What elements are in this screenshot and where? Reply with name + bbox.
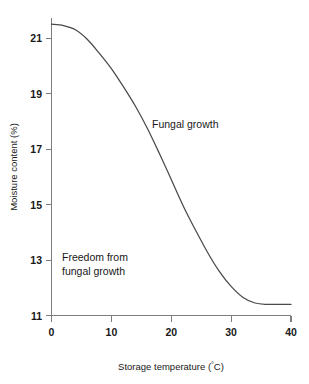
x-tick-label-40: 40 (285, 326, 297, 338)
annotation-fungal-growth: Fungal growth (152, 118, 219, 130)
y-tick-label-11: 11 (31, 310, 42, 322)
y-tick-label-21: 21 (30, 32, 42, 44)
chart-figure: 21 19 17 15 13 11 0 10 20 30 40 Storage … (0, 0, 309, 384)
x-tick-label-0: 0 (49, 326, 55, 338)
x-tick-label-20: 20 (165, 326, 177, 338)
y-tick-label-17: 17 (30, 143, 42, 155)
y-tick-label-19: 19 (30, 88, 42, 100)
y-tick-label-13: 13 (30, 254, 42, 266)
annotation-freedom-line2: fungal growth (62, 265, 125, 277)
annotation-freedom-line1: Freedom from (62, 251, 128, 263)
y-tick-label-15: 15 (30, 199, 42, 211)
chart-canvas: 21 19 17 15 13 11 0 10 20 30 40 Storage … (0, 0, 309, 384)
x-axis-title-suffix: C) (214, 361, 224, 372)
x-tick-label-10: 10 (106, 326, 118, 338)
x-tick-label-30: 30 (225, 326, 237, 338)
x-axis-title-prefix: Storage temperature ( (118, 361, 212, 372)
x-axis-title: Storage temperature (°C) (118, 361, 224, 372)
y-axis-title: Moisture content (%) (8, 123, 19, 211)
